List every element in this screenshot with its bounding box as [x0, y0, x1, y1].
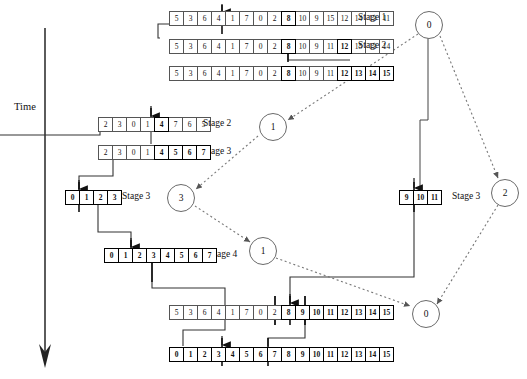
array-cell: 0	[253, 11, 268, 26]
array-cell: 5	[239, 347, 254, 362]
array-cell: 1	[225, 39, 240, 54]
array-cell: 4	[211, 66, 226, 81]
array-cell: 1	[79, 190, 94, 205]
array-cell: 2	[132, 248, 147, 263]
array-cell: 3	[112, 145, 127, 160]
array-cell: 8	[281, 39, 296, 54]
array-cell: 1	[140, 117, 155, 132]
wire-stage4bottom-to-final	[268, 319, 305, 346]
array-cell: 3	[183, 66, 198, 81]
array-cell: 0	[65, 190, 80, 205]
array-cell: 7	[202, 248, 217, 263]
stage-label: Stage 2	[358, 40, 386, 50]
row-stage3-quad: 0123	[66, 190, 122, 205]
node-0-top: 0	[415, 11, 443, 39]
array-cell: 11	[427, 190, 442, 205]
wire-left3-to-quad	[79, 159, 113, 189]
array-cell: 4	[225, 347, 240, 362]
array-cell: 6	[197, 39, 212, 54]
node-2-right: 2	[491, 179, 519, 207]
dotted-node3-to-node1lower	[195, 206, 250, 242]
array-cell: 15	[379, 305, 394, 320]
array-cell: 7	[267, 347, 282, 362]
array-cell: 12	[337, 11, 352, 26]
array-cell: 5	[168, 145, 183, 160]
array-cell: 1	[118, 248, 133, 263]
array-cell: 15	[323, 11, 338, 26]
array-cell: 10	[295, 39, 310, 54]
array-cell: 3	[183, 305, 198, 320]
array-cell: 6	[182, 117, 197, 132]
array-cell: 7	[239, 66, 254, 81]
array-cell: 13	[351, 66, 366, 81]
node-1-lower-middle: 1	[249, 237, 277, 265]
array-cell: 9	[295, 305, 310, 320]
array-cell: 4	[211, 11, 226, 26]
array-cell: 4	[211, 39, 226, 54]
node-0-bottom: 0	[412, 300, 440, 328]
wire-quad-to-stage4	[98, 204, 131, 247]
row-stage2-left: 23014765	[99, 117, 211, 132]
array-cell: 8	[281, 305, 296, 320]
array-cell: 5	[169, 305, 184, 320]
wire-right3-to-stage4bottom	[290, 204, 414, 304]
array-cell: 1	[183, 347, 198, 362]
wire-node0-to-right3	[420, 38, 428, 188]
array-cell: 12	[337, 39, 352, 54]
array-cell: 0	[253, 39, 268, 54]
wire-left2-entry	[0, 118, 103, 135]
array-cell: 6	[197, 11, 212, 26]
dotted-node1upper-to-node3	[196, 136, 258, 189]
array-cell: 2	[267, 11, 282, 26]
array-cell: 14	[365, 347, 380, 362]
array-cell: 5	[169, 66, 184, 81]
array-cell: 15	[379, 66, 394, 81]
hypercube-sort-diagram: Time 5364170281091512141311Stage 1536417…	[0, 0, 527, 379]
array-cell: 6	[182, 145, 197, 160]
array-cell: 1	[225, 11, 240, 26]
array-cell: 2	[98, 117, 113, 132]
array-cell: 0	[126, 145, 141, 160]
array-cell: 4	[154, 145, 169, 160]
array-cell: 13	[351, 347, 366, 362]
array-cell: 6	[253, 347, 268, 362]
array-cell: 0	[104, 248, 119, 263]
array-cell: 1	[225, 66, 240, 81]
array-cell: 12	[337, 347, 352, 362]
row-stage3-right: 91011	[400, 190, 442, 205]
array-cell: 5	[174, 248, 189, 263]
time-axis-label: Time	[14, 101, 36, 112]
row-stage4-left: 01234567	[105, 248, 217, 263]
array-cell: 10	[295, 66, 310, 81]
array-cell: 4	[211, 305, 226, 320]
array-cell: 9	[295, 347, 310, 362]
stage-label: Stage 1	[358, 12, 386, 22]
array-cell: 1	[225, 305, 240, 320]
array-cell: 9	[309, 66, 324, 81]
array-cell: 13	[351, 305, 366, 320]
array-cell: 11	[323, 347, 338, 362]
row-stage3-left: 23014567	[99, 145, 211, 160]
row-stage5-final: 0123456789101112131415	[170, 347, 394, 362]
row-stage4-bottom: 5364170289101112131415	[170, 305, 394, 320]
array-cell: 10	[295, 11, 310, 26]
array-cell: 8	[281, 347, 296, 362]
array-cell: 2	[267, 305, 282, 320]
time-axis-arrowhead	[39, 344, 51, 368]
dotted-node0-to-node2	[440, 36, 498, 178]
array-cell: 14	[365, 305, 380, 320]
array-cell: 12	[337, 305, 352, 320]
array-cell: 2	[197, 347, 212, 362]
array-cell: 14	[365, 66, 380, 81]
array-cell: 15	[379, 347, 394, 362]
array-cell: 3	[112, 117, 127, 132]
node-1-upper-middle: 1	[259, 113, 287, 141]
array-cell: 0	[126, 117, 141, 132]
stage-label: Stage 2	[203, 118, 231, 128]
array-cell: 2	[267, 66, 282, 81]
array-cell: 0	[253, 66, 268, 81]
wire-top1-to-top2	[158, 24, 213, 38]
array-cell: 9	[309, 11, 324, 26]
wire-stage4-to-bottom	[152, 262, 225, 346]
array-cell: 8	[281, 11, 296, 26]
